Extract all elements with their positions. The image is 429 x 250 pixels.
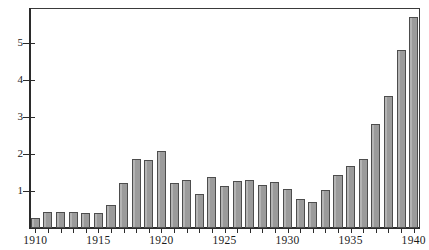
bar [245,180,254,228]
y-axis-tick-label: 1 [5,185,23,196]
x-axis-tick [288,229,289,233]
x-axis-tick [136,229,137,233]
x-axis-tick [338,229,339,233]
x-axis-tick [61,229,62,233]
bar [31,218,40,228]
bar [296,199,305,228]
x-axis-tick-label: 1935 [331,234,371,247]
x-axis-tick [225,229,226,233]
bar [43,212,52,228]
x-axis-tick [237,229,238,233]
x-axis-tick [325,229,326,233]
bar [346,166,355,228]
x-axis-tick [161,229,162,233]
x-axis-tick [199,229,200,233]
bar [233,181,242,228]
bar [321,190,330,228]
x-axis-tick [388,229,389,233]
bar [106,205,115,228]
x-axis-tick [262,229,263,233]
bar [308,202,317,228]
bar [170,183,179,228]
x-axis-tick [187,229,188,233]
bar [207,177,216,228]
bar [359,159,368,228]
x-axis-tick-label: 1925 [205,234,245,247]
y-axis-tick-label: 3 [5,111,23,122]
x-axis-tick [149,229,150,233]
bar [182,180,191,228]
bar-chart-figure: 12345 1910191519201925193019351940 [0,0,429,250]
x-axis-tick [313,229,314,233]
x-axis-tick [212,229,213,233]
bar-series [29,8,420,228]
x-axis-tick [111,229,112,233]
x-axis-tick [73,229,74,233]
x-axis-tick [351,229,352,233]
bar [195,194,204,228]
bar [157,151,166,228]
x-axis-tick [250,229,251,233]
x-axis-tick-label: 1940 [394,234,429,247]
bar [81,213,90,228]
bar [69,212,78,228]
bar [94,213,103,228]
bar [283,189,292,228]
x-axis-tick [98,229,99,233]
x-axis-tick-label: 1915 [78,234,118,247]
x-axis-tick [414,229,415,233]
x-axis-tick [363,229,364,233]
x-axis-tick [35,229,36,233]
bar [56,212,65,228]
x-axis-tick [86,229,87,233]
x-axis-tick [174,229,175,233]
x-axis-tick [401,229,402,233]
y-axis-tick-label: 4 [5,74,23,85]
y-axis-tick-label: 2 [5,148,23,159]
x-axis-tick-label: 1920 [141,234,181,247]
x-axis-tick-label: 1930 [268,234,308,247]
x-axis-tick [275,229,276,233]
x-axis-tick [300,229,301,233]
bar [371,124,380,228]
bar [333,175,342,228]
bar [384,96,393,228]
bar [220,186,229,228]
x-axis-tick [124,229,125,233]
bar [132,159,141,228]
y-axis-tick-label: 5 [5,37,23,48]
bar [409,17,418,228]
x-axis-tick [376,229,377,233]
bar [258,185,267,228]
bar [270,182,279,228]
x-axis-tick-label: 1910 [15,234,55,247]
bar [397,50,406,228]
x-axis-tick [48,229,49,233]
bar [144,160,153,228]
bar [119,183,128,228]
